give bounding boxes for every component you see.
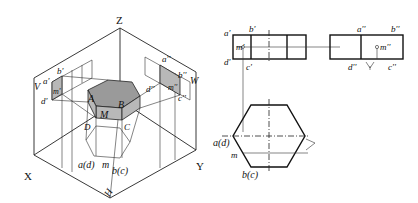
axis-label-z: Z — [116, 14, 123, 26]
label-B: B — [118, 99, 124, 110]
label-a-dprime: a'' — [162, 54, 171, 64]
axonometric-view: Z X Y H V W a' b' d' m' a'' b'' c'' d'' … — [24, 14, 204, 199]
label-a-prime: a' — [43, 76, 51, 86]
label-c-dprime: c'' — [178, 93, 187, 103]
projection-diagram: Z X Y H V W a' b' d' m' a'' b'' c'' d'' … — [0, 0, 418, 203]
top-label-a-d: a(d) — [213, 137, 230, 149]
label-A: A — [87, 93, 95, 104]
side-label-m-dprime: m'' — [380, 42, 391, 52]
label-b-dprime: b'' — [178, 70, 187, 80]
label-m-prime: m' — [53, 87, 61, 96]
front-label-b-prime: b' — [249, 24, 257, 34]
top-label-m: m — [231, 150, 238, 160]
side-label-a-dprime: a'' — [357, 24, 366, 34]
side-label-d-dprime: d'' — [348, 62, 357, 72]
label-D: D — [83, 122, 91, 132]
label-m-dprime: m'' — [168, 83, 177, 92]
plane-label-v: V — [34, 81, 42, 92]
side-label-c-dprime: c'' — [388, 62, 397, 72]
front-label-a-prime: a' — [224, 28, 232, 38]
axis-label-x: X — [24, 170, 32, 182]
front-label-d-prime: d' — [224, 57, 232, 67]
axis-label-y: Y — [196, 160, 204, 172]
top-label-b-c: b(c) — [242, 169, 259, 181]
label-M: M — [99, 109, 109, 120]
label-C: C — [124, 122, 131, 132]
label-d-dprime: d'' — [146, 84, 155, 94]
label-d-prime: d' — [41, 96, 49, 106]
orthographic-view: a' b' m' d' c' a'' b'' m'' d'' c'' a(d) … — [213, 24, 403, 181]
axis-label-h: H — [101, 186, 115, 199]
label-b-prime: b' — [57, 66, 65, 76]
label-a-d: a(d) — [78, 159, 95, 171]
front-label-c-prime: c' — [246, 62, 253, 72]
label-m: m — [102, 159, 109, 170]
label-b-c: b(c) — [112, 165, 129, 177]
plane-label-w: W — [190, 75, 200, 86]
side-label-b-dprime: b'' — [391, 24, 400, 34]
front-label-m-prime: m' — [236, 42, 245, 52]
